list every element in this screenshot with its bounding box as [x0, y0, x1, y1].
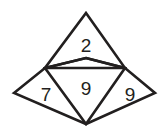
region-label-center: 9: [81, 78, 92, 99]
region-label-top: 2: [81, 35, 92, 56]
figure-container: Overlapping polygons puzzle figure 2 9 7…: [0, 0, 166, 131]
region-label-left: 7: [41, 84, 52, 105]
region-label-right: 9: [125, 84, 136, 105]
geometry-figure: Overlapping polygons puzzle figure 2 9 7…: [0, 0, 166, 131]
